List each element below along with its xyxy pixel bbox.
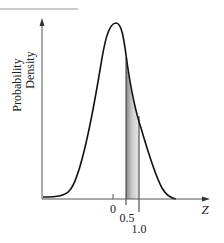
- x-axis-arrow-icon: [202, 197, 210, 202]
- y-axis-arrow-icon: [40, 18, 45, 26]
- x-axis-label: Z: [201, 202, 209, 217]
- probability-density-chart: Probability Density 0 0.5 1.0 Z: [0, 0, 224, 243]
- y-axis-label-line2: Density: [23, 51, 37, 88]
- density-curve: [43, 23, 176, 199]
- y-axis-label-line1: Probability: [10, 58, 24, 111]
- shaded-area-0.5-to-1.0: [126, 60, 139, 199]
- tick-label-1.0: 1.0: [132, 222, 147, 236]
- tick-label-0: 0: [110, 202, 116, 216]
